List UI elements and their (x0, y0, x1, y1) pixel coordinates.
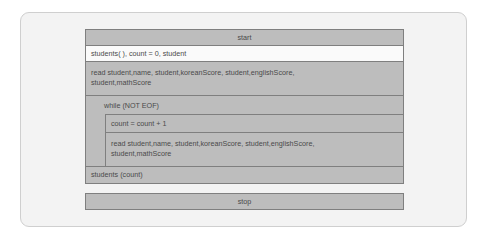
init-label: students( ), count = 0, student (91, 49, 186, 58)
loop-count-label: count = count + 1 (111, 119, 167, 128)
read-block: read student,name, student,koreanScore, … (85, 61, 404, 96)
loop-count-block: count = count + 1 (105, 114, 404, 133)
loop-read-block: read student,name, student,koreanScore, … (105, 132, 404, 167)
read-label: read student,name, student,koreanScore, … (91, 68, 351, 87)
loop-read-label: read student,name, student,koreanScore, … (111, 139, 361, 158)
stop-block: stop (85, 193, 404, 210)
init-block: students( ), count = 0, student (85, 45, 404, 62)
stop-label: stop (238, 197, 252, 206)
output-label: students (count) (91, 170, 143, 179)
start-label: start (238, 33, 252, 42)
start-block: start (85, 29, 404, 46)
while-condition: while (NOT EOF) (104, 101, 159, 111)
output-block: students (count) (85, 166, 404, 184)
